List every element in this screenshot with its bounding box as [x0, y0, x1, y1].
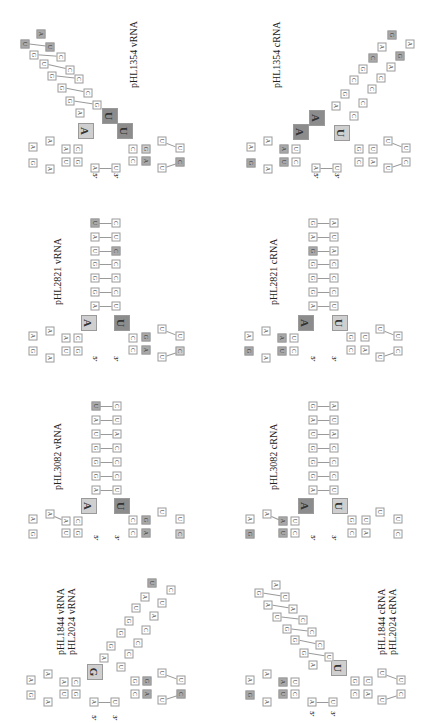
three-prime-end-label: 3' [111, 715, 119, 720]
nucleotide-box: U [376, 508, 385, 517]
nucleotide-box: C [330, 274, 339, 283]
nucleotide-box: C [74, 517, 83, 526]
nucleotide-box: G [255, 589, 264, 598]
nucleotide-box: C [112, 288, 121, 297]
nucleotide-box: U [158, 696, 167, 705]
nucleotide-box: G [348, 516, 357, 525]
nucleotide-box: C [176, 158, 185, 167]
nucleotide-box: G [351, 677, 360, 686]
nucleotide-box: C [368, 85, 377, 94]
nucleotide-box: C [397, 690, 406, 699]
five-prime-end-label: 5' [312, 173, 320, 178]
nucleotide-box: C [142, 626, 151, 635]
three-prime-end-label: 3' [113, 535, 121, 540]
nucleotide-box: A [264, 601, 273, 610]
nucleotide-box: G [309, 288, 318, 297]
nucleotide-box: A [142, 157, 151, 166]
nucleotide-box: U [394, 332, 403, 341]
nucleotide-box: U [278, 347, 287, 356]
nucleotide-box: U [361, 333, 370, 342]
nucleotide-box: U [330, 486, 339, 495]
nucleotide-box: U [114, 498, 130, 514]
nucleotide-box: C [330, 458, 339, 467]
nucleotide-box: A [278, 334, 287, 343]
structure-panel-p1354v: GAAAACUGAUCGCAUUUCAUUAGGCGCGCUCGUUA5'3'p… [0, 0, 216, 180]
three-prime-end-label: 3' [329, 711, 337, 716]
structure-panel-p1354c: GAAAAUUCAUGUCAUUUCAAUACGCCCGCCAAGGA5'3'p… [216, 0, 432, 180]
nucleotide-box: C [369, 54, 378, 63]
nucleotide-box: C [351, 690, 360, 699]
nucleotide-box: A [91, 164, 100, 173]
nucleotide-box: G [48, 72, 57, 81]
nucleotide-box: A [46, 327, 55, 336]
nucleotide-box: G [74, 347, 83, 356]
nucleotide-box: G [92, 458, 101, 467]
nucleotide-box: G [283, 625, 292, 634]
nucleotide-box: C [113, 458, 122, 467]
nucleotide-box: G [309, 274, 318, 283]
nucleotide-box: A [245, 332, 254, 341]
panel-title: pHL2024 cRNA [387, 589, 398, 655]
nucleotide-box: U [280, 158, 289, 167]
nucleotide-box: U [364, 677, 373, 686]
nucleotide-box: A [91, 233, 100, 242]
nucleotide-box: G [309, 472, 318, 481]
nucleotide-box: U [177, 676, 186, 685]
three-prime-end-label: 3' [330, 535, 338, 540]
nucleotide-box: U [330, 302, 339, 311]
nucleotide-box: C [167, 586, 176, 595]
nucleotide-box: U [91, 219, 100, 228]
nucleotide-box: G [347, 333, 356, 342]
nucleotide-box: C [75, 75, 84, 84]
nucleotide-box: A [150, 612, 159, 621]
nucleotide-box: A [143, 690, 152, 699]
nucleotide-box: G [309, 444, 318, 453]
nucleotide-box: U [332, 315, 348, 331]
nucleotide-box: C [129, 157, 138, 166]
nucleotide-box: G [309, 260, 318, 269]
nucleotide-box: C [74, 334, 83, 343]
nucleotide-box: U [331, 660, 347, 676]
nucleotide-box: U [112, 233, 121, 242]
nucleotide-box: U [330, 416, 339, 425]
nucleotide-box: U [362, 516, 371, 525]
nucleotide-box: C [330, 288, 339, 297]
nucleotide-box: A [78, 123, 94, 139]
nucleotide-box: C [350, 112, 359, 121]
nucleotide-box: U [273, 613, 282, 622]
three-prime-end-label: 3' [112, 173, 120, 178]
nucleotide-box: G [92, 444, 101, 453]
panel-title: pHL2821 vRNA [52, 238, 63, 305]
nucleotide-box: U [132, 604, 141, 613]
nucleotide-box: G [247, 159, 256, 168]
nucleotide-box: C [308, 628, 317, 637]
nucleotide-box: A [330, 247, 339, 256]
nucleotide-box: C [112, 247, 121, 256]
nucleotide-box: A [90, 698, 99, 707]
nucleotide-box: A [100, 654, 109, 663]
nucleotide-box: U [62, 529, 71, 538]
nucleotide-box: A [264, 137, 273, 146]
nucleotide-box: C [176, 347, 185, 356]
nucleotide-box: A [29, 143, 38, 152]
nucleotide-box: G [142, 516, 151, 525]
nucleotide-box: C [113, 472, 122, 481]
nucleotide-box: C [292, 158, 301, 167]
nucleotide-box: U [397, 676, 406, 685]
nucleotide-box: A [141, 593, 150, 602]
nucleotide-box: U [376, 325, 385, 334]
nucleotide-box: C [347, 346, 356, 355]
nucleotide-box: C [348, 529, 357, 538]
nucleotide-box: U [158, 137, 167, 146]
five-prime-end-label: 5' [92, 535, 100, 540]
panel-title: pHL3082 cRNA [268, 424, 279, 490]
nucleotide-box: A [369, 158, 378, 167]
nucleotide-box: G [117, 629, 126, 638]
nucleotide-box: A [44, 670, 53, 679]
nucleotide-box: A [330, 219, 339, 228]
nucleotide-box: C [113, 444, 122, 453]
nucleotide-box: G [245, 347, 254, 356]
nucleotide-box: A [46, 165, 55, 174]
nucleotide-box: U [330, 233, 339, 242]
five-prime-end-label: 5' [91, 173, 99, 178]
